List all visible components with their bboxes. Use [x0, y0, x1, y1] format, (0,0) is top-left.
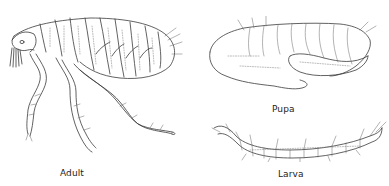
cropped-caption-line [2, 0, 42, 2]
larva-label: Larva [278, 169, 304, 179]
pupa-label: Pupa [272, 104, 295, 114]
adult-label: Adult [60, 168, 84, 178]
pupa-illustration [200, 16, 380, 98]
larva-illustration [210, 118, 389, 162]
adult-flea-illustration [0, 14, 200, 164]
